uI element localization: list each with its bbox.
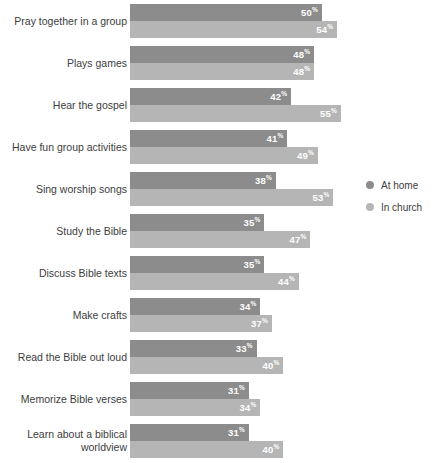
bar-in-church[interactable]: 34% (130, 399, 260, 416)
chart-legend: At home In church (366, 174, 436, 218)
percent-sign: % (300, 233, 306, 240)
percent-sign: % (239, 384, 245, 391)
bar-in-church[interactable]: 44% (130, 273, 299, 290)
bar-value-label: 42% (270, 90, 291, 102)
bar-value-label: 34% (240, 300, 261, 312)
category-label: Memorize Bible verses (0, 393, 130, 406)
bar-group: 50%54% (130, 0, 436, 42)
bar-in-church[interactable]: 47% (130, 231, 310, 248)
category-label: Hear the gospel (0, 99, 130, 112)
bar-value-label: 41% (266, 132, 287, 144)
bar-value-label: 55% (320, 107, 341, 119)
bar-in-church[interactable]: 53% (130, 189, 333, 206)
category-label: Discuss Bible texts (0, 267, 130, 280)
percent-sign: % (323, 191, 329, 198)
bar-value-label: 54% (316, 23, 337, 35)
percent-sign: % (312, 6, 318, 13)
chart-row: Plays games48%48% (0, 42, 436, 84)
bar-at-home[interactable]: 34% (130, 298, 260, 315)
chart-row: Discuss Bible texts35%44% (0, 252, 436, 294)
percent-sign: % (289, 275, 295, 282)
category-label: Make crafts (0, 309, 130, 322)
bar-group: 41%49% (130, 126, 436, 168)
category-label: Plays games (0, 57, 130, 70)
percent-sign: % (274, 359, 280, 366)
bar-value-label: 35% (243, 258, 264, 270)
category-label: Sing worship songs (0, 183, 130, 196)
bar-value-label: 40% (263, 359, 284, 371)
bar-value-label: 50% (301, 6, 322, 18)
bar-at-home[interactable]: 33% (130, 340, 257, 357)
bar-value-label: 44% (278, 275, 299, 287)
bar-in-church[interactable]: 40% (130, 441, 283, 458)
percent-sign: % (239, 426, 245, 433)
category-label: Have fun group activities (0, 141, 130, 154)
bar-at-home[interactable]: 31% (130, 382, 249, 399)
bar-at-home[interactable]: 50% (130, 4, 322, 21)
bar-in-church[interactable]: 54% (130, 21, 337, 38)
bar-group: 34%37% (130, 294, 436, 336)
percent-sign: % (262, 317, 268, 324)
bar-at-home[interactable]: 35% (130, 214, 264, 231)
bar-value-label: 38% (255, 174, 276, 186)
bar-value-label: 40% (263, 443, 284, 455)
legend-label-in-church: In church (381, 202, 422, 213)
percent-sign: % (251, 401, 257, 408)
bar-value-label: 53% (312, 191, 333, 203)
percent-sign: % (331, 107, 337, 114)
chart-row: Make crafts34%37% (0, 294, 436, 336)
bar-in-church[interactable]: 48% (130, 63, 314, 80)
bar-at-home[interactable]: 31% (130, 424, 249, 441)
chart-rows: Pray together in a group50%54%Plays game… (0, 0, 436, 462)
category-label: Pray together in a group (0, 15, 130, 28)
chart-row: Pray together in a group50%54% (0, 0, 436, 42)
percent-sign: % (304, 48, 310, 55)
bar-value-label: 47% (289, 233, 310, 245)
bar-in-church[interactable]: 55% (130, 105, 341, 122)
percent-sign: % (254, 216, 260, 223)
chart-row: Have fun group activities41%49% (0, 126, 436, 168)
chart-row: Memorize Bible verses31%34% (0, 378, 436, 420)
chart-row: Learn about a biblical worldview31%40% (0, 420, 436, 462)
percent-sign: % (281, 90, 287, 97)
percent-sign: % (274, 443, 280, 450)
bar-value-label: 31% (228, 426, 249, 438)
bar-group: 31%40% (130, 420, 436, 462)
legend-item-at-home[interactable]: At home (366, 174, 436, 196)
legend-dot-in-church-icon (366, 203, 374, 211)
percent-sign: % (251, 300, 257, 307)
legend-item-in-church[interactable]: In church (366, 196, 436, 218)
percent-sign: % (327, 23, 333, 30)
bar-in-church[interactable]: 37% (130, 315, 272, 332)
bar-at-home[interactable]: 41% (130, 130, 287, 147)
bar-at-home[interactable]: 48% (130, 46, 314, 63)
bar-at-home[interactable]: 38% (130, 172, 276, 189)
percent-sign: % (304, 65, 310, 72)
bar-value-label: 48% (293, 48, 314, 60)
bar-group: 35%44% (130, 252, 436, 294)
bar-value-label: 33% (236, 342, 257, 354)
bar-value-label: 49% (297, 149, 318, 161)
percent-sign: % (308, 149, 314, 156)
bar-value-label: 35% (243, 216, 264, 228)
bar-value-label: 34% (240, 401, 261, 413)
percent-sign: % (247, 342, 253, 349)
legend-label-at-home: At home (381, 180, 418, 191)
category-label: Study the Bible (0, 225, 130, 238)
category-label: Learn about a biblical worldview (0, 428, 130, 454)
chart-row: Read the Bible out loud33%40% (0, 336, 436, 378)
bar-value-label: 31% (228, 384, 249, 396)
bar-group: 42%55% (130, 84, 436, 126)
percent-sign: % (266, 174, 272, 181)
percent-sign: % (254, 258, 260, 265)
percent-sign: % (277, 132, 283, 139)
bar-group: 33%40% (130, 336, 436, 378)
category-label: Read the Bible out loud (0, 351, 130, 364)
bar-at-home[interactable]: 42% (130, 88, 291, 105)
bar-in-church[interactable]: 40% (130, 357, 283, 374)
bar-value-label: 37% (251, 317, 272, 329)
legend-dot-at-home-icon (366, 181, 374, 189)
grouped-bar-chart: Pray together in a group50%54%Plays game… (0, 0, 436, 463)
bar-in-church[interactable]: 49% (130, 147, 318, 164)
bar-at-home[interactable]: 35% (130, 256, 264, 273)
